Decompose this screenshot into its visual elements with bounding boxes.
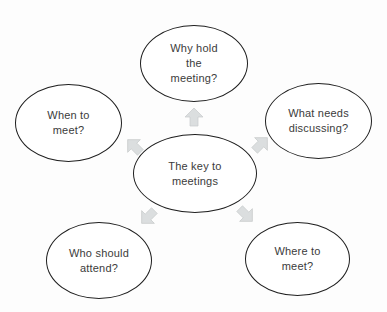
meeting-key-diagram: Why hold the meeting? When to meet? What… [0, 0, 387, 312]
block-arrow-up-icon [184, 107, 204, 127]
block-arrow-down-left-icon [134, 203, 162, 231]
node-what-needs-discussing-label: What needs discussing? [288, 106, 349, 136]
node-key-to-meetings: The key to meetings [133, 134, 257, 213]
node-where-to-meet: Where to meet? [245, 222, 350, 296]
node-where-to-meet-label: Where to meet? [274, 244, 320, 274]
node-why-hold-meeting-label: Why hold the meeting? [170, 41, 217, 86]
block-arrow-down-right-icon [232, 201, 260, 229]
node-why-hold-meeting: Why hold the meeting? [140, 25, 248, 102]
node-when-to-meet-label: When to meet? [47, 108, 89, 138]
node-key-to-meetings-label: The key to meetings [168, 159, 221, 189]
node-what-needs-discussing: What needs discussing? [265, 83, 372, 159]
node-who-should-attend-label: Who should attend? [69, 246, 129, 276]
node-when-to-meet: When to meet? [15, 84, 122, 162]
node-who-should-attend: Who should attend? [46, 222, 152, 299]
